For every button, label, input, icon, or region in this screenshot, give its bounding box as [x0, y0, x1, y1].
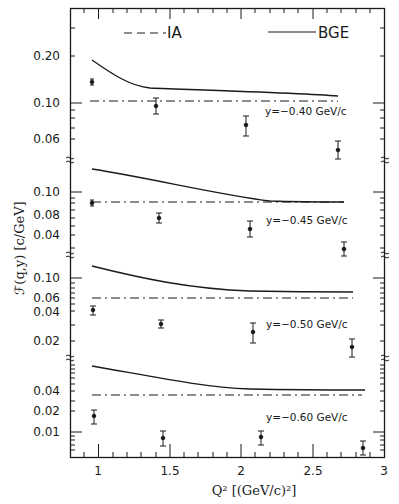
legend: IA BGE [124, 24, 349, 42]
bge-curve [92, 169, 344, 202]
y-tick-label: 0.08 [33, 208, 60, 222]
y-tick-label: 0.10 [33, 185, 60, 199]
x-tick-label: 2 [237, 464, 245, 478]
axis-break-marks [66, 157, 389, 361]
y-tick-label: 0.20 [33, 49, 60, 63]
y-axis-title: ℱ(q,y) [c/GeV] [12, 201, 27, 294]
x-axis-title: Q² [(GeV/c)²] [212, 483, 297, 498]
panel-y-040: 0.20 0.10 0.06 y=−0.40 GeV/c [33, 49, 347, 159]
x-tick-label: 1 [94, 464, 102, 478]
y-tick-label: 0.02 [33, 404, 60, 418]
chart-canvas: IA BGE 0.20 0.10 0.06 y=−0.40 GeV/c 0.10… [0, 0, 399, 504]
legend-ia-label: IA [167, 24, 182, 42]
panel-label: y=−0.40 GeV/c [265, 105, 347, 117]
panel-y-060: 0.04 0.02 0.01 y=−0.60 GeV/c [33, 366, 366, 455]
panel-y-050: 0.10 0.06 0.04 0.02 y=−0.50 GeV/c [33, 266, 355, 357]
panel-label: y=−0.60 GeV/c [266, 411, 348, 423]
panel-y-045: 0.10 0.08 0.04 y=−0.45 GeV/c [33, 169, 348, 256]
y-tick-label: 0.10 [33, 271, 60, 285]
panel-label: y=−0.45 GeV/c [266, 214, 348, 226]
y-tick-label: 0.02 [33, 334, 60, 348]
y-tick-label: 0.04 [33, 228, 60, 242]
legend-bge-label: BGE [318, 24, 349, 42]
bge-curve [92, 60, 338, 96]
y-tick-label: 0.06 [33, 291, 60, 305]
y-tick-label: 0.04 [33, 305, 60, 319]
data-points [90, 200, 347, 256]
y-tick-label: 0.04 [33, 384, 60, 398]
x-tick-label: 2.5 [303, 464, 322, 478]
x-tick-label: 1.5 [160, 464, 179, 478]
y-tick-label: 0.10 [33, 96, 60, 110]
x-tick-labels: 1 1.5 2 2.5 3 [94, 464, 388, 478]
y-tick-label: 0.01 [33, 425, 60, 439]
data-points [90, 306, 355, 357]
panel-label: y=−0.50 GeV/c [266, 318, 348, 330]
bge-curve [92, 266, 353, 292]
bge-curve [92, 366, 365, 390]
y-tick-label: 0.06 [33, 132, 60, 146]
x-tick-label: 3 [380, 464, 388, 478]
